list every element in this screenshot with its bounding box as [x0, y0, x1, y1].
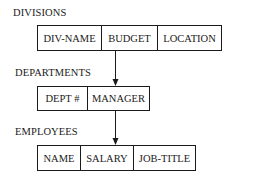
link-departments-to-employees [113, 111, 119, 145]
connectors [0, 0, 268, 179]
arrowhead-icon [113, 138, 119, 145]
link-divisions-to-departments [113, 51, 119, 86]
arrowhead-icon [113, 79, 119, 86]
